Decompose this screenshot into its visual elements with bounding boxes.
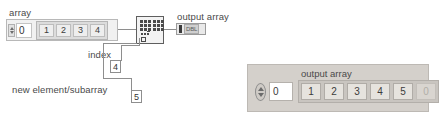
output-array-panel-body: 0 1 2 3 4 5 0 — [254, 80, 439, 103]
array-cell[interactable]: 4 — [90, 24, 105, 37]
spinner-up-arrow-icon[interactable] — [10, 27, 14, 30]
array-control[interactable]: 0 1 2 3 4 — [6, 19, 118, 41]
array-cell[interactable]: 2 — [56, 24, 71, 37]
output-array-cells: 1 2 3 4 5 0 — [298, 80, 439, 103]
output-array-cell[interactable]: 2 — [324, 83, 344, 100]
array-index-value[interactable]: 0 — [16, 23, 32, 38]
output-array-panel-title: output array — [301, 68, 352, 79]
wire-array-to-node — [118, 29, 136, 30]
node-tick-icon — [147, 31, 150, 32]
output-array-cell-empty[interactable]: 0 — [416, 83, 436, 100]
node-result-grid-icon — [153, 20, 164, 31]
wire-index-horizontal — [121, 45, 139, 46]
insert-into-array-node[interactable] — [136, 16, 164, 44]
new-element-input-label: new element/subarray — [12, 84, 107, 95]
output-array-cell[interactable]: 5 — [393, 83, 413, 100]
index-input-value[interactable]: 4 — [110, 60, 121, 73]
array-cell[interactable]: 1 — [39, 24, 54, 37]
terminal-bar-icon — [179, 25, 182, 33]
spinner-down-arrow-icon[interactable] — [10, 31, 14, 34]
wire-index-to-node — [139, 38, 140, 46]
new-element-input-value[interactable]: 5 — [131, 90, 142, 103]
array-cell[interactable]: 3 — [73, 24, 88, 37]
screenshot-canvas: array 0 1 2 3 4 — [0, 0, 440, 118]
array-index-spinner[interactable] — [8, 24, 15, 37]
wire-new-element-horizontal — [103, 78, 132, 79]
output-array-cell[interactable]: 3 — [347, 83, 367, 100]
wire-index-vertical — [121, 45, 122, 61]
output-array-cell[interactable]: 1 — [301, 83, 321, 100]
index-input-label: index — [88, 49, 111, 60]
output-array-index-spinner[interactable] — [254, 82, 267, 102]
terminal-datatype-label: DBL — [184, 24, 199, 34]
wire-new-element-to-node — [103, 43, 137, 44]
array-cells: 1 2 3 4 — [36, 21, 108, 40]
output-array-indicator-terminal[interactable]: DBL — [176, 23, 206, 35]
output-array-terminal-label: output array — [177, 11, 229, 22]
array-control-label: array — [9, 7, 31, 18]
node-array-grid-icon — [140, 20, 151, 31]
node-index-dots-icon — [141, 33, 149, 35]
wire-node-to-output — [164, 29, 176, 30]
output-array-index-value[interactable]: 0 — [269, 82, 293, 101]
output-array-cell[interactable]: 4 — [370, 83, 390, 100]
wire-new-element-riser — [131, 78, 132, 91]
panel-spinner-down-arrow-icon[interactable] — [258, 93, 264, 97]
node-element-square-icon — [141, 37, 146, 42]
panel-spinner-up-arrow-icon[interactable] — [258, 87, 264, 91]
wire-new-element-vertical — [103, 43, 104, 79]
